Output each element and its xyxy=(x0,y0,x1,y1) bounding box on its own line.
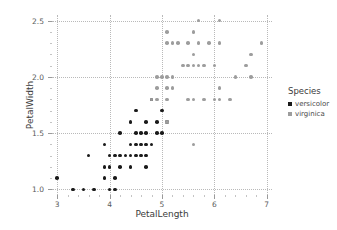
data-point-versicolor xyxy=(129,120,133,124)
legend: Species versicolorvirginica xyxy=(288,86,336,120)
gridline-vertical xyxy=(214,15,215,195)
data-point-versicolor xyxy=(103,176,107,180)
y-axis-tick xyxy=(48,189,52,190)
data-point-versicolor xyxy=(118,131,122,135)
y-axis-tick-label: 2.5 xyxy=(20,16,44,25)
legend-item-label: versicolor xyxy=(295,100,329,108)
data-point-versicolor xyxy=(55,176,59,180)
x-axis-tick-minor xyxy=(204,195,205,197)
x-axis-tick-minor xyxy=(68,195,69,197)
data-point-versicolor xyxy=(108,188,112,192)
y-axis-tick-minor xyxy=(50,178,52,179)
legend-swatch-icon xyxy=(288,112,292,116)
legend-item-virginica[interactable]: virginica xyxy=(288,110,336,118)
y-axis-tick-minor xyxy=(50,99,52,100)
data-point-virginica xyxy=(197,64,201,68)
x-axis-tick xyxy=(57,195,58,199)
data-point-virginica xyxy=(186,41,190,45)
data-point-versicolor xyxy=(134,143,138,147)
data-point-versicolor xyxy=(129,154,133,158)
data-point-versicolor xyxy=(134,109,138,113)
data-point-versicolor xyxy=(155,120,159,124)
x-axis-tick-minor xyxy=(225,195,226,197)
scatter-plot-figure: PetalLength PetalWidth Species versicolo… xyxy=(0,0,337,230)
data-point-versicolor xyxy=(139,143,143,147)
x-axis-tick xyxy=(110,195,111,199)
data-point-virginica xyxy=(165,30,169,34)
x-axis-tick-minor xyxy=(193,195,194,197)
y-axis-tick-minor xyxy=(50,32,52,33)
y-axis-tick-label: 2.0 xyxy=(20,72,44,81)
x-axis-tick-minor xyxy=(152,195,153,197)
data-point-virginica xyxy=(213,64,217,68)
data-point-versicolor xyxy=(113,188,117,192)
data-point-virginica xyxy=(218,41,222,45)
data-point-virginica xyxy=(165,98,169,102)
data-point-versicolor xyxy=(103,165,107,169)
data-point-versicolor xyxy=(71,188,75,192)
x-axis-tick-minor xyxy=(183,195,184,197)
legend-item-versicolor[interactable]: versicolor xyxy=(288,100,336,108)
y-axis-tick-minor xyxy=(50,66,52,67)
data-point-versicolor xyxy=(113,154,117,158)
x-axis-tick-label: 6 xyxy=(212,200,217,209)
y-axis-tick xyxy=(48,21,52,22)
gridline-vertical xyxy=(267,15,268,195)
data-point-virginica xyxy=(155,86,159,90)
data-point-virginica xyxy=(228,98,232,102)
data-point-versicolor xyxy=(144,131,148,135)
y-axis-tick-minor xyxy=(50,156,52,157)
gridline-vertical xyxy=(57,15,58,195)
x-axis-tick-minor xyxy=(120,195,121,197)
data-point-versicolor xyxy=(87,154,91,158)
x-axis-label: PetalLength xyxy=(52,209,272,219)
data-point-virginica xyxy=(213,98,217,102)
x-axis-tick-label: 3 xyxy=(55,200,60,209)
data-point-virginica xyxy=(202,64,206,68)
data-point-virginica xyxy=(186,98,190,102)
data-point-virginica xyxy=(218,19,222,23)
legend-entries: versicolorvirginica xyxy=(288,100,336,118)
data-point-versicolor xyxy=(92,188,96,192)
data-point-versicolor xyxy=(144,120,148,124)
legend-title: Species xyxy=(288,86,336,96)
x-axis-tick-minor xyxy=(141,195,142,197)
y-axis-tick-minor xyxy=(50,43,52,44)
x-axis-tick-minor xyxy=(99,195,100,197)
data-point-virginica xyxy=(249,75,253,79)
y-axis-tick-minor xyxy=(50,167,52,168)
x-axis-tick-label: 7 xyxy=(264,200,269,209)
data-point-virginica xyxy=(165,86,169,90)
x-axis-tick-minor xyxy=(246,195,247,197)
data-point-virginica xyxy=(192,53,196,57)
data-point-versicolor xyxy=(134,154,138,158)
data-point-virginica xyxy=(165,41,169,45)
y-axis-label: PetalWidth xyxy=(25,81,35,129)
data-point-virginica xyxy=(218,98,222,102)
x-axis-tick-minor xyxy=(235,195,236,197)
data-point-virginica xyxy=(207,41,211,45)
data-point-virginica xyxy=(160,75,164,79)
x-axis-tick xyxy=(162,195,163,199)
x-axis-tick-label: 4 xyxy=(107,200,112,209)
x-axis-tick xyxy=(267,195,268,199)
data-point-virginica xyxy=(192,143,196,147)
x-axis-tick-minor xyxy=(256,195,257,197)
legend-swatch-icon xyxy=(288,102,292,106)
data-point-virginica xyxy=(155,98,159,102)
data-point-versicolor xyxy=(144,143,148,147)
data-point-versicolor xyxy=(134,131,138,135)
data-point-virginica xyxy=(218,86,222,90)
x-axis-tick xyxy=(214,195,215,199)
data-point-virginica xyxy=(197,41,201,45)
y-axis-tick-minor xyxy=(50,144,52,145)
y-axis-tick xyxy=(48,77,52,78)
data-point-virginica xyxy=(260,41,264,45)
y-axis-tick xyxy=(48,133,52,134)
data-point-virginica xyxy=(150,98,154,102)
data-point-versicolor xyxy=(129,143,133,147)
y-axis-tick-minor xyxy=(50,54,52,55)
data-point-versicolor xyxy=(129,165,133,169)
y-axis-tick-label: 1.0 xyxy=(20,185,44,194)
x-axis-tick-minor xyxy=(89,195,90,197)
